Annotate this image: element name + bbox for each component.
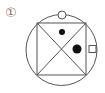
large-dot-marker bbox=[73, 45, 82, 54]
geometry-diagram bbox=[0, 0, 105, 93]
open-square-marker bbox=[89, 46, 96, 53]
small-dot-marker bbox=[59, 29, 65, 35]
open-circle-marker bbox=[58, 11, 66, 19]
